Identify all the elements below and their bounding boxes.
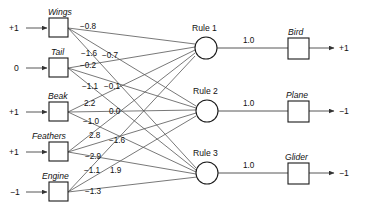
- input-value-wings: +1: [9, 23, 19, 33]
- input-value-beak: +1: [9, 107, 19, 117]
- weight-feathers-rule3: −2.9: [85, 152, 102, 161]
- node-circle-rule3[interactable]: [196, 162, 218, 184]
- node-box-glider[interactable]: [288, 163, 309, 184]
- weight-feathers-rule2: −1.6: [109, 136, 126, 145]
- label-glider: Glider: [285, 152, 309, 162]
- output-weight-labels: 1.0 1.0 1.0: [243, 36, 255, 170]
- label-wings: Wings: [48, 7, 73, 17]
- weight-wings-rule3: −0.7: [102, 51, 119, 60]
- weight-beak-rule1: 2.2: [84, 99, 96, 108]
- label-beak: Beak: [48, 91, 68, 101]
- output-arrows: [309, 48, 334, 173]
- input-value-tail: 0: [14, 63, 19, 73]
- weight-rule2-plane: 1.0: [243, 99, 255, 108]
- label-tail: Tail: [51, 47, 65, 57]
- weight-feathers-rule1: 2.8: [89, 131, 101, 140]
- weight-beak-rule2: 0.0: [109, 107, 121, 116]
- diagram-canvas: Wings Tail Beak Feathers Engine +1 0 +1 …: [0, 0, 366, 219]
- input-weight-labels: −0.8−1.6−0.7−0.2−1.1−0.12.20.0−1.02.8−1.…: [80, 22, 126, 196]
- input-value-engine: −1: [10, 187, 20, 197]
- output-nodes: [288, 38, 309, 184]
- output-values: +1 −1 −1: [339, 43, 349, 178]
- weight-rule3-glider: 1.0: [243, 161, 255, 170]
- output-value-glider: −1: [339, 168, 349, 178]
- node-box-tail[interactable]: [49, 58, 68, 77]
- node-box-beak[interactable]: [49, 102, 68, 121]
- node-box-plane[interactable]: [288, 101, 309, 122]
- input-arrows: [26, 28, 47, 192]
- output-value-plane: −1: [339, 106, 349, 116]
- node-circle-rule2[interactable]: [196, 100, 218, 122]
- node-box-engine[interactable]: [49, 182, 68, 201]
- edge-beak-rule2: [68, 110, 196, 112]
- label-rule2: Rule 2: [193, 86, 218, 96]
- node-box-feathers[interactable]: [49, 142, 68, 161]
- weight-engine-rule3: −1.3: [85, 187, 102, 196]
- node-box-wings[interactable]: [49, 18, 68, 37]
- label-bird: Bird: [288, 27, 304, 37]
- weight-rule1-bird: 1.0: [243, 36, 255, 45]
- weight-engine-rule1: −1.1: [84, 166, 101, 175]
- rule-nodes: [195, 37, 218, 184]
- weight-tail-rule2: −1.1: [82, 82, 99, 91]
- label-rule1: Rule 1: [192, 23, 217, 33]
- label-rule3: Rule 3: [193, 148, 218, 158]
- weight-wings-rule1: −0.8: [80, 22, 97, 31]
- node-box-bird[interactable]: [288, 38, 309, 59]
- output-value-bird: +1: [339, 43, 349, 53]
- weight-tail-rule3: −0.1: [104, 82, 121, 91]
- weight-beak-rule3: −1.0: [83, 117, 100, 126]
- input-value-feathers: +1: [9, 147, 19, 157]
- weight-wings-rule2: −1.6: [81, 49, 98, 58]
- weight-engine-rule2: 1.9: [110, 166, 122, 175]
- input-values: +1 0 +1 +1 −1: [9, 23, 20, 197]
- label-feathers: Feathers: [32, 131, 67, 141]
- label-engine: Engine: [42, 171, 69, 181]
- edges-rules-to-outputs: [217, 48, 288, 173]
- weight-tail-rule1: −0.2: [80, 61, 97, 70]
- node-circle-rule1[interactable]: [195, 37, 217, 59]
- label-plane: Plane: [286, 90, 308, 100]
- network-diagram: Wings Tail Beak Feathers Engine +1 0 +1 …: [0, 0, 366, 219]
